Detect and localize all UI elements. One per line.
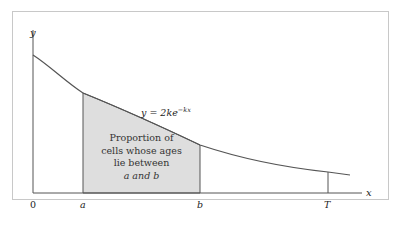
caption-line-1: Proportion of [84,132,199,145]
marker-a-label: a [80,199,86,210]
marker-b-label: b [197,199,203,210]
caption-line-3: lie between [84,157,199,170]
shaded-region-caption: Proportion of cells whose ages lie betwe… [84,132,199,182]
caption-line-4: a and b [84,170,199,183]
origin-label: 0 [30,199,36,210]
x-axis-label: x [366,187,372,198]
marker-t-label: T [324,199,331,210]
y-axis-label: y [29,27,36,38]
curve-equation: y = 2ke−kx [140,106,191,118]
age-distribution-diagram: y x 0 a b T y = 2ke−kx [0,0,395,228]
caption-line-2: cells whose ages [84,145,199,158]
